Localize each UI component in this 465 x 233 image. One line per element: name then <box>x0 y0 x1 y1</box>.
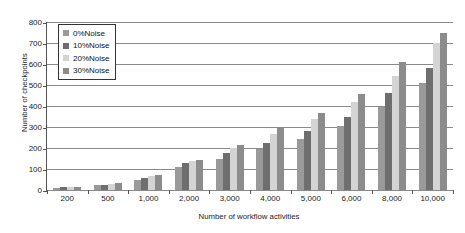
y-axis-tick-label: 300 <box>8 124 42 132</box>
legend-label: 20%Noise <box>73 54 109 63</box>
x-axis-tick-mark <box>453 190 454 194</box>
bar <box>196 160 203 190</box>
bar <box>344 117 351 191</box>
x-axis-tick-label: 10,000 <box>420 194 444 203</box>
bar <box>67 187 74 190</box>
y-axis-tick-label: 600 <box>8 61 42 69</box>
x-axis-title: Number of workflow activities <box>40 212 458 221</box>
bar <box>101 185 108 190</box>
y-axis-tick-label: 100 <box>8 166 42 174</box>
x-axis-tick-label: 3,000 <box>220 194 240 203</box>
legend-swatch-icon <box>63 55 69 61</box>
legend-item: 0%Noise <box>63 28 109 38</box>
x-axis-tick-mark <box>209 190 210 194</box>
legend-swatch-icon <box>63 30 69 36</box>
bar-group: 3,000 <box>209 22 250 190</box>
x-axis-tick-label: 5,000 <box>301 194 321 203</box>
legend-swatch-icon <box>63 43 69 49</box>
x-axis-tick-label: 8,000 <box>382 194 402 203</box>
bar <box>378 107 385 190</box>
bar <box>311 119 318 190</box>
legend-label: 30%Noise <box>73 66 109 75</box>
bar <box>358 94 365 190</box>
legend-swatch-icon <box>63 68 69 74</box>
x-axis-tick-mark <box>47 190 48 194</box>
bar-group: 2,000 <box>169 22 210 190</box>
legend-label: 10%Noise <box>73 41 109 50</box>
legend-item: 10%Noise <box>63 41 109 51</box>
x-axis-tick-mark <box>331 190 332 194</box>
legend: 0%Noise 10%Noise 20%Noise 30%Noise <box>58 24 116 80</box>
bar-group: 10,000 <box>412 22 453 190</box>
bar <box>440 33 447 191</box>
bar <box>237 145 244 190</box>
bar <box>351 102 358 190</box>
x-axis-tick-mark <box>128 190 129 194</box>
x-axis-tick-mark <box>372 190 373 194</box>
legend-item: 20%Noise <box>63 53 109 63</box>
bar <box>318 113 325 190</box>
bar-group: 8,000 <box>372 22 413 190</box>
legend-item: 30%Noise <box>63 66 109 76</box>
bar <box>108 184 115 190</box>
x-axis-tick-mark <box>250 190 251 194</box>
bar <box>60 187 67 190</box>
x-axis-tick-label: 200 <box>61 194 74 203</box>
x-axis-tick-label: 500 <box>101 194 114 203</box>
bar-group: 1,000 <box>128 22 169 190</box>
bar <box>385 93 392 190</box>
legend-label: 0%Noise <box>73 29 105 38</box>
bar <box>392 76 399 190</box>
y-axis-tick-label: 0 <box>8 187 42 195</box>
bar-group: 4,000 <box>250 22 291 190</box>
y-axis-tick-label: 400 <box>8 103 42 111</box>
y-axis-tick-label: 200 <box>8 145 42 153</box>
bar <box>182 163 189 190</box>
bar <box>433 43 440 190</box>
bar <box>277 128 284 190</box>
bar <box>189 161 196 190</box>
x-axis-tick-label: 6,000 <box>341 194 361 203</box>
x-axis-tick-label: 1,000 <box>138 194 158 203</box>
x-axis-tick-mark <box>88 190 89 194</box>
bar <box>115 183 122 190</box>
bar <box>263 143 270 190</box>
x-axis-tick-mark <box>412 190 413 194</box>
bar <box>256 149 263 190</box>
bar <box>297 139 304 190</box>
bar <box>399 62 406 190</box>
bar <box>175 167 182 190</box>
y-axis-tick-label: 700 <box>8 40 42 48</box>
bar <box>216 159 223 191</box>
y-axis-tick-label: 500 <box>8 82 42 90</box>
bar <box>419 83 426 190</box>
bar-group: 5,000 <box>291 22 332 190</box>
bar <box>53 188 60 190</box>
bar <box>155 175 162 190</box>
x-axis-tick-label: 4,000 <box>260 194 280 203</box>
x-axis-tick-label: 2,000 <box>179 194 199 203</box>
x-axis-tick-mark <box>169 190 170 194</box>
bar-group: 6,000 <box>331 22 372 190</box>
x-axis-tick-mark <box>291 190 292 194</box>
bar <box>337 126 344 190</box>
bar <box>304 131 311 190</box>
bar-chart: Number of checkpoints Number of workflow… <box>0 0 465 233</box>
bar <box>134 180 141 190</box>
y-axis-tick-label: 800 <box>8 19 42 27</box>
bar <box>94 185 101 190</box>
bar <box>426 68 433 190</box>
bar <box>141 178 148 190</box>
bar <box>148 176 155 190</box>
bar <box>223 153 230 190</box>
bar <box>230 148 237 190</box>
bar <box>270 134 277 190</box>
bar <box>74 187 81 190</box>
